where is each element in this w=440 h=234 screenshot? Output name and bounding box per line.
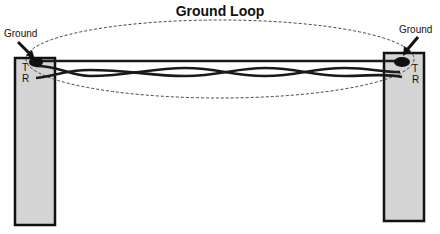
right-ground-terminal — [394, 57, 410, 67]
right-tip-label: T — [412, 63, 418, 74]
left-tip-label: T — [22, 62, 28, 73]
left-pole — [15, 58, 55, 225]
right-ground-label: Ground — [399, 24, 432, 35]
left-ground-label: Ground — [4, 28, 37, 39]
ground-loop-diagram: Ground Loop Ground T R Ground T R — [0, 0, 440, 234]
right-ring-label: R — [412, 74, 419, 85]
ground-loop-ellipse — [26, 20, 414, 98]
left-ring-label: R — [22, 73, 29, 84]
diagram-title: Ground Loop — [0, 3, 440, 19]
diagram-svg — [0, 0, 440, 234]
left-ground-terminal — [29, 57, 43, 67]
